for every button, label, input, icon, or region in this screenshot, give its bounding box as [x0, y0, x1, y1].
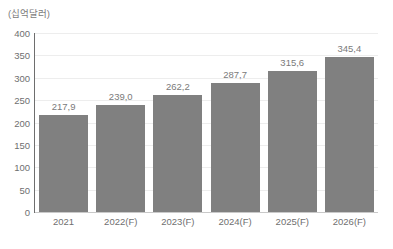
x-axis-tick-label: 2021 — [35, 216, 92, 227]
bar-chart: (십억달러) 217,9239,0262,2287,7315,6345,4 40… — [0, 0, 393, 249]
x-axis-tick-label: 2026(F) — [321, 216, 378, 227]
x-axis-tick-labels: 20212022(F)2023(F)2024(F)2025(F)2026(F) — [0, 0, 393, 249]
x-axis-tick-label: 2023(F) — [149, 216, 206, 227]
x-axis-tick-label: 2024(F) — [207, 216, 264, 227]
x-axis-tick-label: 2022(F) — [92, 216, 149, 227]
x-axis-tick-label: 2025(F) — [264, 216, 321, 227]
